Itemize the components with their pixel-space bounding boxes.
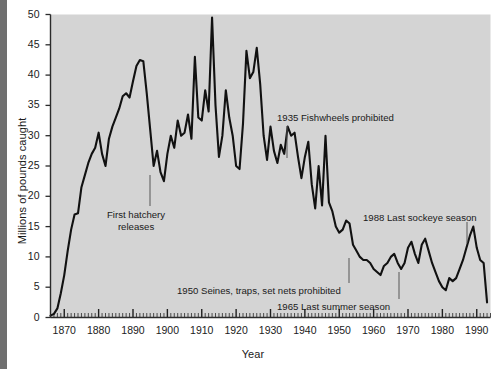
annotation-last-summer-season: 1965 Last summer season (277, 301, 390, 313)
y-axis-tick-label: 20 (18, 189, 40, 201)
chart-figure: Millions of pounds caught Year 051015202… (0, 0, 503, 369)
annotation-line: releases (107, 221, 165, 233)
annotation-first-hatchery-releases: First hatcheryreleases (107, 209, 165, 232)
annotation-last-sockeye-season: 1988 Last sockeye season (363, 212, 477, 224)
annotation-line: 1950 Seines, traps, set nets prohibited (177, 285, 341, 297)
annotation-line: 1965 Last summer season (277, 301, 390, 313)
annotation-line: 1988 Last sockeye season (363, 212, 477, 224)
salmon-catch-line-chart (0, 0, 503, 369)
y-axis-tick-label: 35 (18, 98, 40, 110)
annotation-fishwheels-prohibited: 1935 Fishwheels prohibited (277, 112, 394, 124)
y-axis-tick-label: 5 (18, 280, 40, 292)
y-axis-tick-label: 45 (18, 38, 40, 50)
y-axis-tick-label: 30 (18, 129, 40, 141)
plot-area-background (51, 15, 491, 318)
y-axis-tick-label: 0 (18, 311, 40, 323)
annotation-line: First hatchery (107, 209, 165, 221)
y-axis-tick-label: 40 (18, 68, 40, 80)
y-axis-tick-label: 25 (18, 159, 40, 171)
x-axis-title: Year (198, 348, 308, 360)
y-axis-tick-label: 10 (18, 250, 40, 262)
annotation-seines-traps-set-nets-prohibited: 1950 Seines, traps, set nets prohibited (177, 285, 341, 297)
y-axis-tick-label: 15 (18, 220, 40, 232)
annotation-line: 1935 Fishwheels prohibited (277, 112, 394, 124)
x-axis-tick-label: 1990 (457, 324, 497, 336)
y-axis-tick-label: 50 (18, 8, 40, 20)
